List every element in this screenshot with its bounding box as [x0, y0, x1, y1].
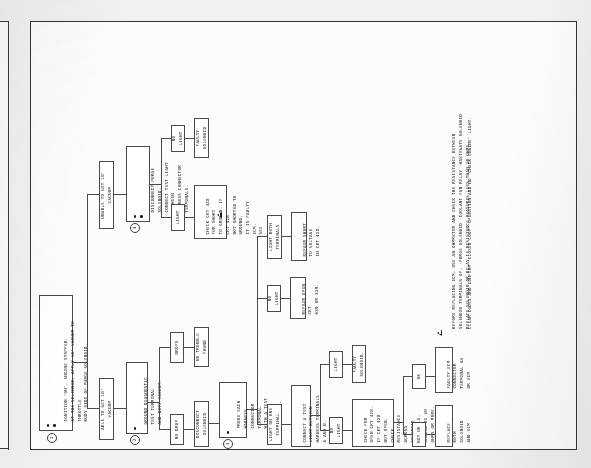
flowchart-canvas: 1 IGNITION "ON", ENGINE STOPPED. AT THE … [31, 22, 576, 449]
node-ground-diagnostic: GROUND DIAGNOSTIC TEST TERMINAL AND NOTE… [126, 362, 148, 434]
warning-triangle-icon-footnote [437, 330, 442, 336]
connector-to-nodrop [159, 429, 170, 430]
connector-to-light-c [161, 217, 171, 218]
manual-page: Canister Purge Valve—3.8L 1 IGNITION "ON… [0, 0, 591, 468]
node-start-text: IGNITION "ON", ENGINE STOPPED. AT THE SO… [63, 321, 88, 422]
connector-ab-split [320, 365, 321, 431]
connector-connect-ab-down [311, 415, 320, 416]
node-no-drop-text: NO DROP [174, 420, 181, 440]
connector-to-unable [87, 194, 99, 195]
connector-able-down [114, 408, 126, 409]
connector-no-light-c-down [185, 138, 194, 139]
node-unable-vacuum: UNABLE TO GET 10" VACUUM [99, 161, 114, 229]
connector-nodrop-down [184, 429, 194, 430]
connector-ground-down [148, 402, 159, 403]
node-unable-vacuum-text: UNABLE TO GET 10" VACUUM [100, 164, 113, 226]
node-faulty-solenoid-c-text: FAULTY SOLENOID [195, 121, 208, 155]
node-light-both-terminals: LIGHT BOTH TERMINALS [267, 215, 282, 259]
node-faulty-ecm-text: FAULTY ECM CONNECTOR TERMINAL A3 OR ECM [446, 358, 471, 389]
node-no-light-b-text: NO LIGHT [329, 420, 342, 441]
node-light-both-terminals-text: LIGHT BOTH TERMINALS [268, 218, 281, 256]
node-able-vacuum: ABLE TO GET 10" VACUUM [99, 378, 114, 440]
node-ok-text: OK [416, 374, 423, 380]
node-connect-test-light-ab: CONNECT A TEST LIGHT BETWEEN HARNESS TER… [291, 385, 311, 447]
node-light-c: LIGHT [171, 204, 185, 231]
connector-light-one-down [282, 424, 291, 425]
connector-probe-split [257, 237, 258, 425]
connector-to-able [87, 408, 99, 409]
connector-disconnect-down [209, 423, 219, 424]
node-no-light-c-text: NO LIGHT [171, 128, 184, 149]
node-no-trouble-found: NO TROUBLE FOUND [194, 327, 209, 367]
connector-light-both-down [282, 236, 291, 237]
step-marker-1: 1 [47, 433, 57, 443]
connector-to-ok [403, 376, 412, 377]
step-marker-3: 3 [223, 439, 233, 449]
connector-purge-split [161, 139, 162, 218]
node-no-light-c: NO LIGHT [171, 125, 185, 152]
connector-to-no-light-c [161, 138, 171, 139]
node-light-one-terminal: LIGHT ON ONE TERMINAL [267, 404, 282, 445]
footnote-closing-text: CLEAR CODES AND CONFIRM "CLOSED LOOP" OP… [467, 117, 472, 329]
node-ok: OK [412, 364, 426, 389]
node-disconnect-purge: DISCONNECT PURGE SOLENOID. CONNECT TEST … [126, 146, 150, 222]
step-marker-2: 2 [130, 435, 140, 445]
node-replace-both-text: REPLACE BOTH SOLENOID AND ECM [446, 420, 471, 442]
node-check-short-428-text: CHECK CKT 428 FOR SHORT TO GROUND. IF CK… [205, 195, 264, 234]
node-not-ok-text: NOT OK [416, 426, 423, 443]
node-faulty-solenoid-c: FAULTY SOLENOID [194, 118, 209, 158]
connector-probe-down [247, 409, 257, 410]
connector-check-open-down [394, 422, 403, 423]
node-no-trouble-found-text: NO TROUBLE FOUND [195, 330, 208, 364]
node-no-light-b: NO LIGHT [329, 417, 343, 444]
node-no-light-a: NO LIGHT [267, 285, 281, 312]
connector-to-light-both [257, 236, 267, 237]
connector-no-light-a-down [281, 298, 290, 299]
node-no-light-a-text: NO LIGHT [267, 288, 280, 309]
node-probe-harness: PROBE EACH HARNESS CONNECTOR TERMINAL WI… [219, 382, 247, 438]
connector-check-open-split [403, 377, 404, 435]
node-repair-short-text: REPAIR SHORT TO VOLTAGE IN CKT 428. [302, 223, 320, 257]
node-no-drop: NO DROP [170, 414, 184, 445]
node-faulty-solenoid-b: FAULTY SOLENOID. [352, 345, 366, 383]
node-light-b-text: LIGHT [333, 358, 340, 372]
connector-to-not-ok [403, 434, 412, 435]
footnote-closing: CLEAR CODES AND CONFIRM "CLOSED LOOP" OP… [459, 29, 474, 329]
connector-ok-down [426, 376, 435, 377]
connector-light-b-down [343, 364, 352, 365]
connector-to-light-b [320, 364, 329, 365]
step-marker-4: 4 [130, 223, 140, 233]
node-light-one-terminal-text: LIGHT ON ONE TERMINAL [268, 407, 281, 442]
flowchart-frame: 1 IGNITION "ON", ENGINE STOPPED. AT THE … [30, 21, 577, 450]
connector-ground-split [159, 348, 160, 430]
node-repair-open: REPAIR OPEN CKT 639 OR 339. [290, 277, 306, 319]
node-faulty-ecm: FAULTY ECM CONNECTOR TERMINAL A3 OR ECM [435, 347, 453, 393]
connector-to-light-one [257, 424, 267, 425]
connector-start-down [73, 362, 87, 363]
connector-drops-down [184, 347, 194, 348]
node-disconnect-solenoid: DISCONNECT SOLENOID [194, 401, 209, 447]
node-check-short-428: CHECK CKT 428 FOR SHORT TO GROUND. IF CK… [194, 185, 227, 239]
node-able-vacuum-text: ABLE TO GET 10" VACUUM [100, 381, 113, 437]
node-replace-both: REPLACE BOTH SOLENOID AND ECM [435, 405, 453, 447]
node-start: IGNITION "ON", ENGINE STOPPED. AT THE SO… [39, 295, 73, 431]
connector-unable-down [114, 194, 126, 195]
node-disconnect-solenoid-text: DISCONNECT SOLENOID [195, 404, 208, 444]
connector-light-c-down [185, 217, 194, 218]
node-not-ok: NOT OK [412, 422, 426, 447]
facing-page-edge [0, 21, 9, 449]
node-drops-text: DROPS [174, 341, 181, 355]
node-light-b: LIGHT [329, 351, 343, 378]
connector-no-light-b-down [343, 430, 352, 431]
connector-purge-down [150, 184, 161, 185]
warning-triangle-icon [217, 212, 222, 218]
connector-not-ok-down [426, 434, 435, 435]
node-connect-test-light-ab-text: CONNECT A TEST LIGHT BETWEEN HARNESS TER… [302, 395, 327, 442]
connector-to-no-light-b [320, 430, 329, 431]
node-repair-short: REPAIR SHORT TO VOLTAGE IN CKT 428. [291, 212, 307, 261]
connector-start-split [87, 195, 88, 409]
connector-to-no-light-a [257, 298, 267, 299]
node-check-open-428: CHECK FOR OPEN CKT 428. IF CKT 428 NOT O… [352, 399, 394, 447]
node-repair-open-text: REPAIR OPEN CKT 639 OR 339. [301, 284, 319, 315]
node-light-c-text: LIGHT [175, 211, 182, 225]
